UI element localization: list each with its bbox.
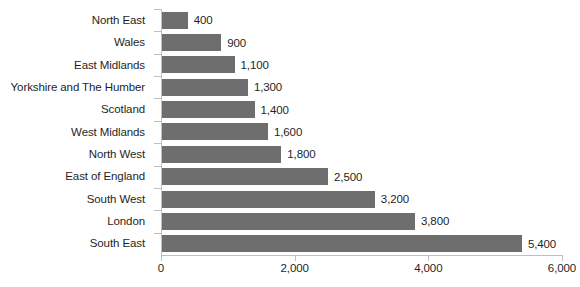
bar-row: 1,400 (161, 98, 562, 120)
category-axis-row: North West (0, 143, 152, 165)
category-axis-ticks (154, 9, 161, 255)
bar-row: 1,800 (161, 143, 562, 165)
value-axis-tick (428, 256, 429, 261)
category-axis-labels: North East Wales East Midlands Yorkshire… (0, 9, 152, 255)
value-axis-labels: 02,0004,0006,000 (0, 262, 580, 282)
category-axis-label: North West (89, 148, 145, 161)
bar-value-label: 400 (194, 14, 213, 26)
bar-row: 1,600 (161, 121, 562, 143)
value-axis-ticks (161, 256, 563, 261)
bar-value-label: 1,800 (287, 148, 315, 160)
bar-value-label: 1,300 (254, 81, 282, 93)
category-axis-row: Wales (0, 31, 152, 53)
category-axis-tick (154, 143, 161, 165)
bar (161, 12, 188, 29)
plot-area: 400 900 1,100 1,300 1,400 1,600 (161, 9, 562, 255)
category-axis-tick (154, 166, 161, 188)
bar (161, 56, 235, 73)
bar (161, 146, 281, 163)
category-axis-row: South East (0, 233, 152, 255)
value-axis-tick (161, 256, 162, 261)
bar-value-label: 1,100 (241, 59, 269, 71)
category-axis-label: East Midlands (74, 59, 145, 72)
bar-chart: North East Wales East Midlands Yorkshire… (0, 0, 580, 287)
category-axis-row: Scotland (0, 98, 152, 120)
value-axis-tick-label: 0 (158, 262, 164, 274)
category-axis-tick (154, 210, 161, 232)
bar-value-label: 2,500 (334, 171, 362, 183)
bar-value-label: 3,200 (381, 193, 409, 205)
bar (161, 34, 221, 51)
category-axis-row: East Midlands (0, 54, 152, 76)
category-axis-label: Yorkshire and The Humber (11, 81, 145, 94)
bar-row: 3,200 (161, 188, 562, 210)
bar-value-label: 1,600 (274, 126, 302, 138)
category-axis-tick (154, 98, 161, 120)
category-axis-tick (154, 233, 161, 255)
bar (161, 101, 255, 118)
value-axis-tick (295, 256, 296, 261)
category-axis-label: London (107, 215, 145, 228)
category-axis-tick (154, 54, 161, 76)
category-axis-label: South West (87, 193, 145, 206)
bar-row: 1,300 (161, 76, 562, 98)
category-axis-tick (154, 9, 161, 31)
bar-value-label: 1,400 (261, 104, 289, 116)
bar (161, 168, 328, 185)
value-axis-tick (562, 256, 563, 261)
value-axis-line (161, 9, 162, 256)
bar-row: 5,400 (161, 233, 562, 255)
bar (161, 123, 268, 140)
category-axis-tick (154, 76, 161, 98)
category-axis-label: East of England (65, 170, 145, 183)
category-axis-label: South East (90, 237, 145, 250)
bar-row: 3,800 (161, 210, 562, 232)
category-axis-label: West Midlands (71, 126, 145, 139)
category-axis-row: Yorkshire and The Humber (0, 76, 152, 98)
bar (161, 191, 375, 208)
bar-series: 400 900 1,100 1,300 1,400 1,600 (161, 9, 562, 255)
category-axis-tick (154, 31, 161, 53)
category-axis-row: London (0, 210, 152, 232)
value-axis-tick-label: 4,000 (414, 262, 442, 274)
bar (161, 79, 248, 96)
category-axis-tick (154, 188, 161, 210)
value-axis-tick-label: 6,000 (548, 262, 576, 274)
category-axis-label: North East (92, 14, 145, 27)
bar-row: 2,500 (161, 166, 562, 188)
bar (161, 235, 522, 252)
category-axis-row: North East (0, 9, 152, 31)
category-axis-row: South West (0, 188, 152, 210)
category-axis-row: West Midlands (0, 121, 152, 143)
bar-value-label: 5,400 (528, 238, 556, 250)
bar-row: 1,100 (161, 54, 562, 76)
category-axis-label: Scotland (101, 103, 145, 116)
bar-row: 400 (161, 9, 562, 31)
category-axis-row: East of England (0, 166, 152, 188)
bar-value-label: 3,800 (421, 215, 449, 227)
bar-row: 900 (161, 31, 562, 53)
category-axis-label: Wales (114, 36, 145, 49)
bar (161, 213, 415, 230)
bar-value-label: 900 (227, 37, 246, 49)
value-axis-tick-label: 2,000 (281, 262, 309, 274)
category-axis-tick (154, 121, 161, 143)
